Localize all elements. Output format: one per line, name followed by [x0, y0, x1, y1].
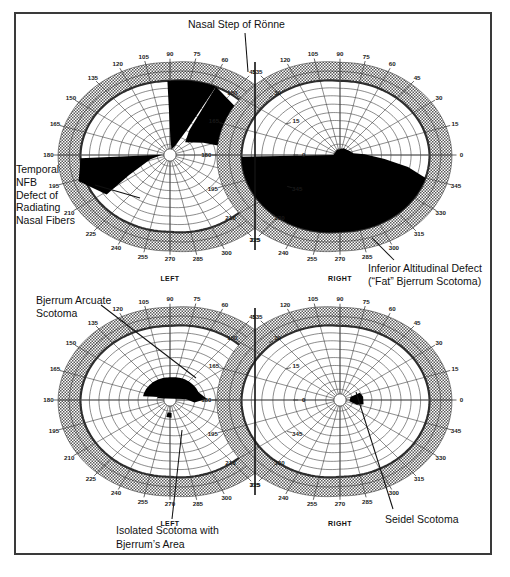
upper-right-tickmark: [261, 76, 264, 79]
upper-right-tick-120: 120: [278, 56, 292, 64]
annotation-inferior-altitudinal-line1: Inferior Altitudinal Defect: [368, 262, 482, 275]
lower-left-tick-345: 345: [290, 430, 304, 438]
upper-right-tickmark: [388, 68, 390, 71]
upper-right-tick-105: 105: [306, 50, 320, 58]
upper-left-tick-285: 285: [191, 255, 205, 263]
lower-right-tick-105: 105: [306, 295, 320, 303]
upper-right-tick-195: 195: [206, 185, 220, 193]
annotation-temporal-nfb: Temporal NFB Defect of Radiating Nasal F…: [16, 163, 75, 227]
upper-left-tickmark: [120, 68, 122, 71]
lower-right-tick-90: 90: [333, 295, 347, 303]
upper-left-tick-165: 165: [48, 120, 62, 128]
upper-right-tick-150: 150: [225, 89, 239, 97]
upper-right-tick-45: 45: [410, 74, 424, 82]
upper-left-tick-15: 15: [289, 117, 303, 125]
upper-left-tick-270: 270: [163, 255, 177, 263]
upper-right-tickmark: [364, 61, 365, 65]
eye-label-upper-right: RIGHT: [322, 275, 358, 284]
upper-left-tick-60: 60: [218, 56, 232, 64]
lower-right-tick-345: 345: [449, 427, 463, 435]
upper-left-tick-195: 195: [47, 182, 61, 190]
lower-left-tickmark: [120, 313, 122, 316]
lower-left-tick-165: 165: [48, 365, 62, 373]
eye-label-lower-right: RIGHT: [322, 520, 358, 529]
lower-right-tick-120: 120: [278, 301, 292, 309]
leader-nasal-step: [245, 33, 248, 72]
lower-left-tickmark: [96, 326, 99, 329]
lower-right-tickmark: [364, 306, 365, 310]
lower-left-tick-210: 210: [62, 454, 76, 462]
upper-right-tick-345: 345: [449, 182, 463, 190]
fixation-point: [334, 394, 346, 406]
figure-root: Nasal Step of Rönne Temporal NFB Defect …: [0, 0, 510, 577]
lower-left-tick-30: 30: [271, 334, 285, 342]
upper-left-tickmark: [96, 81, 99, 84]
lower-right-tick-330: 330: [434, 454, 448, 462]
upper-right-tick-60: 60: [385, 60, 399, 68]
lower-right-tickmark: [261, 321, 264, 324]
lower-left-tick-180: 180: [41, 396, 55, 404]
lower-left-tick-240: 240: [109, 489, 123, 497]
lower-left-tick-300: 300: [220, 494, 234, 502]
upper-right-tick-285: 285: [360, 253, 374, 261]
lower-right-tick-15: 15: [448, 365, 462, 373]
upper-right-tick-300: 300: [387, 244, 401, 252]
annotation-bjerrum-arcuate: Bjerrum Arcuate Scotoma: [36, 294, 111, 320]
lower-right-tick-240: 240: [276, 494, 290, 502]
lower-left-tickmark: [145, 306, 146, 310]
upper-left-tick-345: 345: [290, 185, 304, 193]
upper-left-tick-120: 120: [111, 60, 125, 68]
eye-label-upper-left: LEFT: [152, 275, 188, 284]
lower-left-tickmark: [246, 321, 249, 324]
lower-left-tickmark: [221, 309, 223, 313]
upper-left-tick-240: 240: [109, 244, 123, 252]
upper-left-tick-210: 210: [62, 209, 76, 217]
lower-right-tick-315: 315: [412, 475, 426, 483]
upper-right-tickmark: [314, 59, 315, 63]
lower-left-tick-75: 75: [190, 295, 204, 303]
lower-left-tick-135: 135: [86, 319, 100, 327]
upper-left-tick-30: 30: [271, 89, 285, 97]
lower-left-tick-15: 15: [289, 362, 303, 370]
upper-left-tick-135: 135: [86, 74, 100, 82]
upper-left-tick-225: 225: [84, 230, 98, 238]
lower-left-tickmark: [195, 304, 196, 308]
upper-right-tick-225: 225: [248, 236, 262, 244]
upper-left-tick-180: 180: [41, 151, 55, 159]
lower-right-tick-30: 30: [432, 339, 446, 347]
chart-lower-right: [217, 307, 452, 497]
lower-left-tick-120: 120: [111, 305, 125, 313]
upper-right-tick-315: 315: [412, 230, 426, 238]
upper-left-tickmark: [246, 76, 249, 79]
upper-left-tickmark: [221, 64, 223, 68]
lower-right-tick-210: 210: [223, 459, 237, 467]
upper-right-tick-75: 75: [359, 53, 373, 61]
upper-right-tick-255: 255: [305, 255, 319, 263]
annotation-nasal-step: Nasal Step of Rönne: [188, 18, 285, 31]
lower-right-tick-285: 285: [360, 498, 374, 506]
lower-right-tick-60: 60: [385, 305, 399, 313]
upper-left-tick-255: 255: [136, 253, 150, 261]
lower-right-tick-255: 255: [305, 500, 319, 508]
lower-right-tick-45: 45: [410, 319, 424, 327]
upper-right-tick-30: 30: [432, 94, 446, 102]
upper-left-tick-90: 90: [163, 50, 177, 58]
lower-right-tick-270: 270: [333, 500, 347, 508]
upper-right-tick-165: 165: [207, 117, 221, 125]
fixation-point: [164, 149, 176, 161]
lower-left-tick-330: 330: [273, 459, 287, 467]
upper-left-tick-105: 105: [137, 53, 151, 61]
lower-right-tick-150: 150: [225, 334, 239, 342]
upper-right-tickmark: [411, 81, 414, 84]
lower-right-tick-165: 165: [207, 362, 221, 370]
lower-right-tick-0: 0: [455, 396, 469, 404]
lower-right-tick-300: 300: [387, 489, 401, 497]
upper-left-tick-75: 75: [190, 50, 204, 58]
lower-left-tick-0: 0: [297, 396, 311, 404]
annotation-inferior-altitudinal-line2: (“Fat” Bjerrum Scotoma): [368, 275, 481, 288]
upper-left-tickmark: [145, 61, 146, 65]
upper-right-tick-90: 90: [333, 50, 347, 58]
upper-left-tick-0: 0: [297, 151, 311, 159]
lower-right-tickmark: [411, 326, 414, 329]
upper-right-tick-210: 210: [223, 214, 237, 222]
